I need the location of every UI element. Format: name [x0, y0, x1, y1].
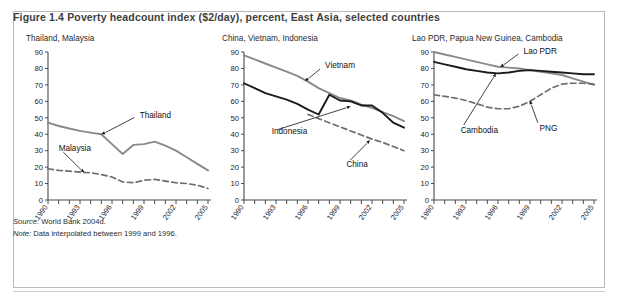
x-tick-label: 1993 [261, 203, 278, 222]
x-tick-label: 1996 [293, 203, 310, 222]
chart-panel-3: Lao PDR, Papua New Guinea, Cambodia 0102… [412, 34, 607, 234]
series-annotation-label: Thailand [140, 111, 172, 120]
y-tick-label: 10 [421, 179, 429, 188]
annotation-arrowhead [500, 64, 504, 67]
y-tick-label: 50 [35, 114, 43, 123]
annotation-leader-line [105, 118, 134, 133]
y-tick-label: 20 [35, 163, 43, 172]
y-tick-label: 20 [231, 163, 239, 172]
line-chart-svg: 0102030405060708090199019931996199920022… [222, 47, 408, 232]
note-text: Data interpolated between 1999 and 1996. [31, 229, 177, 238]
series-annotation-label: PNG [540, 124, 558, 133]
annotation-leader-line [504, 54, 518, 65]
x-tick-label: 1990 [229, 203, 246, 222]
y-tick-label: 30 [35, 146, 43, 155]
x-tick-label: 1999 [325, 203, 342, 222]
line-chart-svg: 0102030405060708090199019931996199920022… [412, 47, 598, 232]
y-tick-label: 30 [231, 146, 239, 155]
chart-panels: Thailand, Malaysia 010203040506070809019… [0, 34, 619, 234]
y-tick-label: 70 [35, 81, 43, 90]
source-label: Source: [13, 217, 39, 226]
y-tick-label: 50 [421, 114, 429, 123]
series-annotation-label: China [346, 160, 368, 169]
y-tick-label: 90 [231, 48, 239, 57]
chart-panel-1: Thailand, Malaysia 010203040506070809019… [26, 34, 216, 234]
figure-title: Figure 1.4 Poverty headcount index ($2/d… [13, 11, 440, 23]
source-text: World Bank 2004d. [39, 217, 106, 226]
y-tick-label: 60 [231, 97, 239, 106]
panel-plot-1: 0102030405060708090199019931996199920022… [26, 47, 212, 236]
x-tick-label: 2005 [579, 203, 596, 222]
annotation-leader-line [464, 77, 494, 125]
y-tick-label: 20 [421, 163, 429, 172]
x-tick-label: 1996 [483, 203, 500, 222]
y-tick-label: 40 [35, 130, 43, 139]
series-annotation-label: Malaysia [59, 144, 92, 153]
chart-panel-2: China, Vietnam, Indonesia 01020304050607… [222, 34, 412, 234]
x-tick-label: 1993 [451, 203, 468, 222]
y-tick-label: 50 [231, 114, 239, 123]
series-annotation-label: Cambodia [461, 126, 499, 135]
annotation-leader-line [309, 69, 320, 78]
panel-title-2: China, Vietnam, Indonesia [222, 34, 318, 43]
annotation-arrowhead [366, 140, 370, 144]
series-line-malaysia [48, 169, 208, 189]
panel-plot-2: 0102030405060708090199019931996199920022… [222, 47, 408, 236]
figure-bottom-rule [13, 291, 605, 292]
y-tick-label: 90 [35, 48, 43, 57]
x-tick-label: 1999 [515, 203, 532, 222]
series-annotation-label: Vietnam [325, 61, 355, 70]
y-tick-label: 10 [35, 179, 43, 188]
y-tick-label: 70 [421, 81, 429, 90]
annotation-leader-line [531, 105, 537, 123]
x-tick-label: 2005 [389, 203, 406, 222]
x-tick-label: 1990 [419, 203, 436, 222]
source-line: Source: World Bank 2004d. [13, 216, 177, 228]
y-tick-label: 60 [35, 97, 43, 106]
x-tick-label: 2002 [547, 203, 564, 222]
series-annotation-label: Indonesia [272, 127, 308, 136]
annotation-leader-line [350, 143, 367, 160]
y-tick-label: 40 [421, 130, 429, 139]
y-tick-label: 60 [421, 97, 429, 106]
annotation-arrowhead [347, 106, 351, 109]
series-annotation-label: Lao PDR [524, 47, 557, 56]
line-chart-svg: 0102030405060708090199019931996199920022… [26, 47, 212, 232]
panel-title-3: Lao PDR, Papua New Guinea, Cambodia [412, 34, 563, 43]
note-label: Note: [13, 229, 31, 238]
y-tick-label: 80 [421, 64, 429, 73]
y-tick-label: 10 [231, 179, 239, 188]
figure-footnotes: Source: World Bank 2004d. Note: Data int… [13, 216, 177, 240]
y-tick-label: 70 [231, 81, 239, 90]
annotation-leader-line [63, 152, 81, 169]
series-line-png [434, 83, 594, 108]
y-tick-label: 80 [231, 64, 239, 73]
y-tick-label: 90 [421, 48, 429, 57]
y-tick-label: 40 [231, 130, 239, 139]
panel-plot-3: 0102030405060708090199019931996199920022… [412, 47, 598, 236]
panel-title-1: Thailand, Malaysia [26, 34, 94, 43]
note-line: Note: Data interpolated between 1999 and… [13, 228, 177, 240]
y-tick-label: 80 [35, 64, 43, 73]
annotation-arrowhead [101, 131, 105, 134]
y-tick-label: 30 [421, 146, 429, 155]
x-tick-label: 2002 [357, 203, 374, 222]
x-tick-label: 2005 [193, 203, 210, 222]
